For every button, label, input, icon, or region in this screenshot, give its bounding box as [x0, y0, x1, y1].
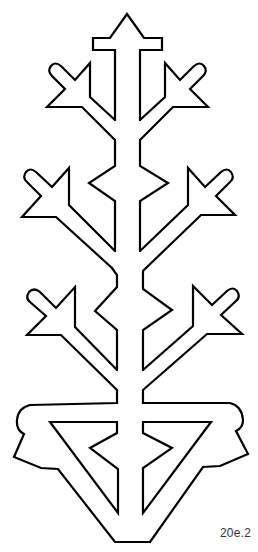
middle-right-branch — [140, 168, 235, 268]
tree-ornament-drawing — [0, 0, 258, 552]
base-right-outline — [143, 390, 248, 542]
lower-right-branch — [143, 286, 242, 390]
stem-lower-left — [95, 268, 117, 370]
stem-middle-right — [140, 140, 168, 251]
upper-left-branch — [47, 63, 115, 140]
upper-right-branch — [140, 63, 208, 140]
stem-lower-right — [143, 268, 172, 370]
stem-middle-left — [89, 140, 115, 251]
top-arrow-outline — [93, 14, 162, 120]
middle-left-branch — [22, 168, 115, 268]
figure-label: 20e.2 — [220, 526, 251, 540]
base-inner-right-triangle — [143, 422, 211, 513]
base-inner-left-triangle — [50, 422, 118, 513]
